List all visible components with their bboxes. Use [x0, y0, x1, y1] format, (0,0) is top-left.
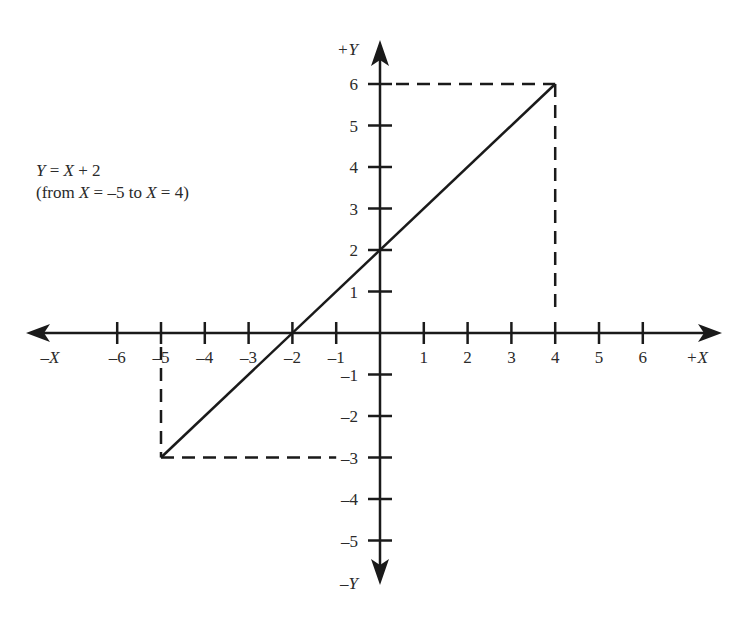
- y-axis-positive-label: +Y: [337, 40, 359, 59]
- x-tick-label: 3: [507, 348, 516, 367]
- x-tick-label: –1: [327, 348, 345, 367]
- axes: [26, 40, 722, 585]
- x-tick-label: –5: [152, 348, 170, 367]
- x-tick-label: –6: [108, 348, 126, 367]
- x-tick-label: 1: [420, 348, 429, 367]
- x-tick-label: –2: [283, 348, 301, 367]
- x-tick-label: 4: [551, 348, 560, 367]
- y-tick-label: –2: [340, 407, 358, 426]
- y-tick-label: 1: [350, 283, 359, 302]
- y-tick-label: –1: [340, 366, 358, 385]
- line-y-equals-x-plus-2: [161, 84, 555, 458]
- y-tick-label: 2: [350, 241, 359, 260]
- y-tick-label: 3: [350, 200, 359, 219]
- x-tick-label: 2: [463, 348, 472, 367]
- y-tick-label: –5: [340, 532, 358, 551]
- y-tick-label: 6: [350, 75, 359, 94]
- line-series: [161, 84, 555, 458]
- y-tick-label: –4: [340, 490, 359, 509]
- x-tick-label: –4: [195, 348, 214, 367]
- x-axis-negative-label: –X: [40, 348, 61, 367]
- y-tick-label: 4: [350, 158, 359, 177]
- x-tick-label: –3: [239, 348, 257, 367]
- chart-plot: –6–5–4–3–2–1123456–5–4–3–2–1123456–X+X+Y…: [0, 0, 740, 620]
- x-tick-label: 6: [639, 348, 648, 367]
- y-axis-negative-label: –Y: [339, 574, 360, 593]
- axis-labels: –6–5–4–3–2–1123456–5–4–3–2–1123456–X+X+Y…: [40, 40, 709, 593]
- x-axis-positive-label: +X: [686, 348, 708, 367]
- y-tick-label: –3: [340, 449, 358, 468]
- x-tick-label: 5: [595, 348, 604, 367]
- y-tick-label: 5: [350, 117, 359, 136]
